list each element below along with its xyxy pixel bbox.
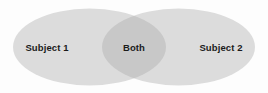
intersection-label: Both xyxy=(123,43,145,53)
venn-diagram: Subject 1 Both Subject 2 xyxy=(0,0,268,93)
right-set-label: Subject 2 xyxy=(199,43,242,53)
left-set-label: Subject 1 xyxy=(25,43,68,53)
